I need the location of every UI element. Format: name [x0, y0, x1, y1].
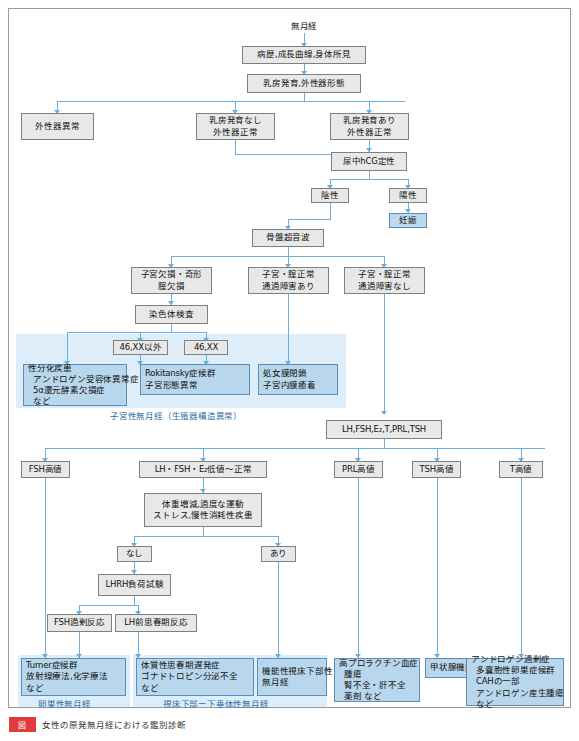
node-diagnosis-dsd: 性分化疾患 アンドロゲン受容体異常症 5α還元酵素欠損症 など	[23, 364, 127, 406]
group-label-hypothalamic-pituitary: 視床下部ー下垂体性無月経	[163, 697, 269, 709]
connector	[288, 247, 289, 256]
node-breast-exam: 乳房発育,外性器形態	[247, 74, 361, 93]
node-diagnosis-constitutional-delay: 体質性思春期遅発症 ゴナドトロピン分泌不全 など	[136, 658, 254, 696]
node-t-high: T高値	[499, 461, 543, 478]
flowchart-canvas: 無月経 病歴,成長曲線,身体所見 乳房発育,外性器形態 外性器異常 乳房発育なし…	[0, 0, 579, 741]
connector	[288, 219, 331, 220]
node-pregnancy: 妊娠	[389, 213, 427, 228]
connector	[304, 93, 305, 101]
connector	[171, 256, 384, 257]
connector	[358, 478, 359, 658]
node-prl-high: PRL高値	[334, 461, 383, 478]
group-label-ovarian-amenorrhea: 卵巣性無月経	[38, 697, 91, 709]
node-karyotype-non-46xx: 46,XX以外	[113, 340, 168, 355]
node-karyotype-46xx: 46,XX	[184, 340, 228, 355]
connector	[134, 536, 278, 537]
node-diagnosis-androgen-excess: アンドロゲン過剰症 多嚢胞性卵巣症候群 CAHの一部 アンドロゲン産生腫瘍 など	[466, 658, 564, 706]
node-uterus-normal-no-obstruction: 子宮・腟正常 通過障害なし	[344, 267, 425, 294]
connector	[437, 478, 438, 658]
node-pelvic-ultrasound: 骨盤超音波	[252, 229, 324, 247]
arrow-head	[381, 411, 387, 415]
node-diagnosis-turner: Turner症候群 放射線療法,化学療法 など	[21, 658, 126, 696]
node-hcg-negative: 陰性	[311, 188, 349, 203]
connector	[384, 439, 385, 448]
node-hormone-panel: LH,FSH,E₂,T,PRL,TSH	[326, 420, 442, 439]
connector	[384, 294, 385, 414]
connector	[369, 171, 370, 179]
connector	[278, 562, 279, 658]
node-uterus-absent-malformation: 子宮欠損・奇形 腟欠損	[131, 267, 212, 294]
connector	[67, 332, 68, 364]
connector	[171, 324, 172, 332]
node-lifestyle-factors: 体重増減,過度な運動 ストレス,慢性消耗性疾患	[144, 493, 262, 527]
node-fsh-high: FSH高値	[21, 461, 70, 478]
connector	[67, 332, 141, 333]
node-start: 無月経	[264, 20, 344, 34]
connector	[330, 179, 408, 180]
node-hcg-positive: 陽性	[389, 188, 427, 203]
figure-caption: 図 女性の原発無月経における鑑別診断	[9, 712, 569, 736]
connector	[203, 527, 204, 536]
node-uterus-normal-obstruction-present: 子宮・腟正常 通過障害あり	[248, 267, 329, 294]
connector	[45, 478, 46, 658]
node-diagnosis-imperforate-hymen: 処女膜閉鎖 子宮内膜癒着	[258, 364, 338, 395]
node-lifestyle-absent: なし	[117, 546, 152, 562]
node-tsh-high: TSH高値	[412, 461, 461, 478]
node-lhrh-stimulation-test: LHRH負荷試験	[98, 574, 171, 596]
group-label-uterine-amenorrhea: 子宮性無月経（生殖器構造異常）	[110, 409, 242, 421]
node-no-breast-development: 乳房発育なし 外性器正常	[196, 113, 275, 140]
connector	[134, 596, 135, 605]
node-urine-hcg-test: 尿中hCG定性	[331, 152, 407, 171]
connector	[330, 203, 331, 219]
connector	[521, 478, 522, 658]
node-karyotype-test: 染色体検査	[135, 305, 208, 324]
node-lh-fsh-e2-low-normal: LH・FSH・E₂低値〜正常	[139, 461, 267, 478]
node-diagnosis-rokitansky: Rokitansky症候群 子宮形態異常	[140, 364, 250, 395]
node-diagnosis-hyperprolactinemia: 高プロラクチン血症 腫瘍 腎不全・肝不全 薬剤 など	[334, 658, 420, 702]
node-external-genital-abnormal: 外性器異常	[21, 113, 94, 140]
connector	[288, 294, 289, 364]
connector	[79, 605, 138, 606]
connector	[57, 101, 405, 102]
caption-chip: 図	[9, 717, 36, 732]
node-diagnosis-functional-hypothalamic: 機能性視床下部性 無月経	[257, 658, 327, 696]
node-lifestyle-present: あり	[261, 546, 296, 562]
node-breast-development-present: 乳房発育あり 外性器正常	[330, 113, 409, 140]
node-history: 病歴,成長曲線,身体所見	[242, 46, 366, 64]
connector	[45, 448, 545, 449]
connector	[140, 332, 206, 333]
node-fsh-overreaction: FSH過剰反応	[47, 614, 112, 632]
connector	[235, 140, 236, 154]
node-lh-prepubertal-response: LH前思春期反応	[115, 614, 197, 632]
caption-text: 女性の原発無月経における鑑別診断	[42, 718, 186, 730]
